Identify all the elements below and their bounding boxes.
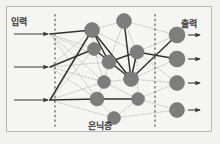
- output-node-o4: [170, 103, 185, 118]
- hidden-layer-label: 은닉층: [88, 122, 112, 131]
- output-layer-label: 출력: [181, 20, 197, 29]
- hidden-node-h8: [90, 92, 104, 106]
- output-node-o3: [170, 76, 185, 91]
- hidden-node-h9: [132, 93, 145, 106]
- inactive-edge-i2-h8: [50, 67, 97, 99]
- hidden-node-h1: [85, 23, 100, 38]
- neuron-nodes: [85, 14, 186, 125]
- hidden-node-h2: [117, 14, 132, 29]
- inactive-edge-i2-h1: [50, 30, 92, 67]
- output-node-o2: [169, 51, 185, 67]
- inactive-edge-i3-h10: [50, 100, 114, 118]
- output-node-o1: [169, 27, 185, 43]
- inactive-edge-i1-h6: [50, 34, 104, 82]
- hidden-node-h7: [124, 72, 139, 87]
- hidden-node-h3: [88, 43, 101, 56]
- hidden-node-h4: [102, 55, 116, 69]
- hidden-node-h5: [130, 45, 144, 59]
- input-layer-label: 입력: [11, 18, 27, 27]
- figure-root: 입력 출력 은닉층: [0, 0, 220, 144]
- hidden-node-h6: [98, 76, 111, 89]
- inactive-edge-h10-o4: [114, 110, 177, 118]
